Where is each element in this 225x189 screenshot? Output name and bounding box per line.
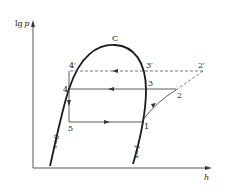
vapor-line-label: x=1 [132,144,142,159]
x-axis-arrow-icon [205,166,212,170]
arrow-5-1-icon [104,120,110,124]
y-axis-label: lgp [15,19,29,28]
point-4prime-label: 4′ [69,61,76,70]
dashed-cycle [69,69,203,90]
point-5-label: 5 [68,124,73,133]
x-axis-label: h [204,173,209,182]
point-2prime-label: 2′ [198,61,205,70]
liquid-line-label: x=0 [51,133,62,149]
arrow-4-5-icon [67,100,71,106]
saturation-dome [50,45,146,166]
point-1-label: 1 [144,122,149,131]
point-2-label: 2 [177,91,182,100]
arrow-3prime-4prime-icon [112,69,118,73]
path-2-2prime [176,71,203,90]
point-3prime-label: 3′ [146,61,153,70]
y-axis-arrow-icon [31,20,35,27]
arrow-3-4-icon [108,87,114,91]
lgp-h-diagram: lgp h C x=0 x=1 1 2 2′ 3 3′ 4 4′ 5 [0,0,225,189]
path-1-2 [142,90,176,121]
point-4-label: 4 [63,85,68,94]
point-3-label: 3 [148,79,153,88]
solid-cycle [67,71,176,124]
critical-point-label: C [112,34,118,43]
